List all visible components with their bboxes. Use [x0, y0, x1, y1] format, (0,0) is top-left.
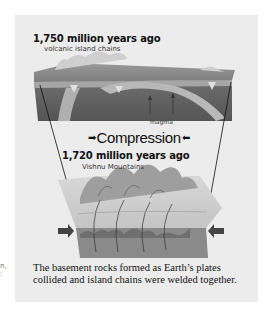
stage2-block — [58, 164, 224, 258]
magma-label: magma — [150, 118, 173, 125]
stage2-title: 1,720 million years ago — [62, 150, 189, 161]
compression-arrow-left-icon — [58, 224, 74, 238]
compression-arrow-right-icon — [208, 224, 224, 238]
stage1-block — [34, 51, 235, 121]
stage2-subtitle: Vishnu Mountains — [82, 163, 144, 171]
arrow-right-icon: ➡ — [88, 132, 96, 143]
caption-line: The basement rocks formed as Earth’s pla… — [33, 262, 258, 274]
stage1-subtitle: volcanic island chains — [44, 45, 121, 53]
caption-line: collided and island chains were welded t… — [33, 274, 258, 286]
figure-caption: The basement rocks formed as Earth’s pla… — [33, 262, 258, 286]
compression-label-group: ➡ Compression ⬅ — [88, 129, 189, 146]
stage1-title: 1,750 million years ago — [33, 33, 160, 44]
compression-label: Compression — [97, 129, 181, 146]
arrow-left-icon: ⬅ — [182, 132, 190, 143]
